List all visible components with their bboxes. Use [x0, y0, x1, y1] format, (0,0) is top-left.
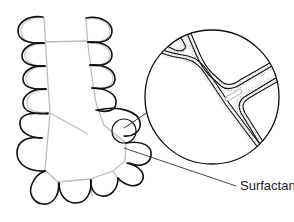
surfactant-label: Surfactant — [240, 178, 294, 193]
alveolar-septa — [44, 17, 126, 196]
alveolar-sac — [17, 17, 151, 204]
magnified-view — [145, 22, 285, 164]
